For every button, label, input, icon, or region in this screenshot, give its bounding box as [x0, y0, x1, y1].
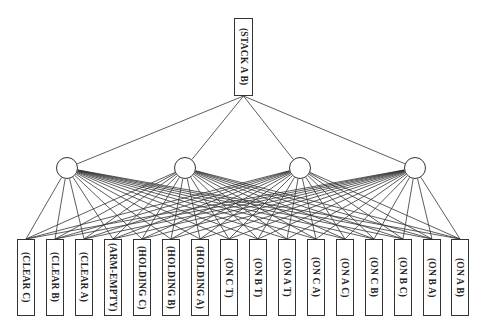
leaf-node: (ON C A) [307, 239, 325, 316]
hidden-node-4 [404, 157, 426, 179]
root-node-label: (STACK A B) [239, 28, 249, 85]
leaf-node: (ON B T) [249, 239, 267, 316]
leaf-node: (HOLDING A) [191, 239, 209, 316]
leaf-node: (HOLDING B) [162, 239, 180, 316]
leaf-label: (ARM-EMPTY) [108, 243, 118, 312]
leaf-label: (ON B C) [398, 257, 408, 297]
leaf-label: (ON B T) [253, 258, 263, 297]
hidden-node-2 [174, 157, 196, 179]
leaf-node: (CLEAR C) [17, 239, 35, 316]
hidden-node-1 [56, 157, 78, 179]
leaf-label: (HOLDING A) [195, 246, 205, 309]
leaf-label: (ON A T) [282, 258, 292, 297]
leaf-node: (ON A T) [278, 239, 296, 316]
root-node: (STACK A B) [234, 18, 253, 96]
leaf-label: (ON A C) [340, 258, 350, 298]
leaf-node: (CLEAR A) [75, 239, 93, 316]
leaf-node: (CLEAR B) [46, 239, 64, 316]
leaf-label: (CLEAR B) [50, 252, 60, 302]
leaf-label: (ON C B) [369, 257, 379, 297]
leaf-label: (ON C T) [224, 258, 234, 298]
leaf-node: (ARM-EMPTY) [104, 239, 122, 316]
leaf-label: (ON C A) [311, 257, 321, 297]
leaf-node: (ON A B) [451, 239, 469, 316]
leaf-label: (HOLDING B) [166, 246, 176, 309]
leaf-node: (HOLDING C) [133, 239, 151, 316]
leaf-label: (ON A B) [455, 258, 465, 297]
leaf-label: (CLEAR A) [79, 252, 89, 302]
leaf-label: (ON B A) [427, 258, 437, 298]
leaf-node: (ON C B) [365, 239, 383, 316]
plan-graph-diagram: (STACK A B) (CLEAR C) (CLEAR B) (CLEAR A… [0, 0, 485, 331]
leaf-label: (CLEAR C) [21, 252, 31, 303]
leaf-node: (ON B A) [423, 239, 441, 316]
hidden-node-3 [289, 157, 311, 179]
leaf-node: (ON A C) [336, 239, 354, 316]
leaf-label: (HOLDING C) [137, 246, 147, 310]
leaf-node: (ON B C) [394, 239, 412, 316]
leaf-node: (ON C T) [220, 239, 238, 316]
